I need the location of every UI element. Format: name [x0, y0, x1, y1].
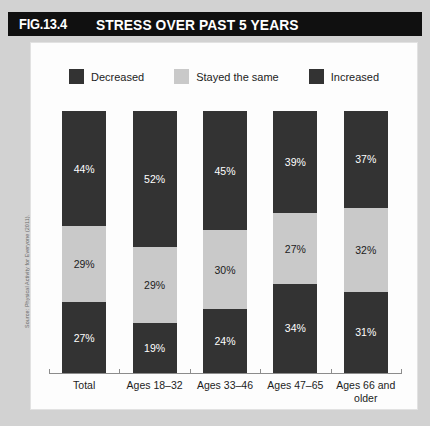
- stacked-bar: 52%29%19%: [133, 111, 177, 373]
- legend-item: Decreased: [69, 69, 144, 84]
- bar-group: 44%29%27%: [49, 111, 119, 373]
- bar-segment: 37%: [344, 111, 388, 208]
- bar-group: 37%32%31%: [331, 111, 401, 373]
- chart-plot-area: 44%29%27%52%29%19%45%30%24%39%27%34%37%3…: [49, 111, 401, 373]
- legend-label: Stayed the same: [196, 71, 279, 83]
- stacked-bar: 39%27%34%: [273, 111, 317, 373]
- bar-segment: 29%: [62, 226, 106, 302]
- bar-segment-value: 29%: [144, 279, 165, 291]
- bar-segment: 34%: [273, 284, 317, 373]
- bar-segment: 45%: [203, 111, 247, 230]
- bar-segment: 52%: [133, 111, 177, 247]
- x-axis-label: Ages 66 and older: [331, 379, 401, 405]
- bar-group: 52%29%19%: [119, 111, 189, 373]
- figure-title-bar: FIG.13.4 STRESS OVER PAST 5 YEARS: [8, 12, 422, 36]
- axis-tick: [49, 369, 50, 374]
- figure-number: FIG.13.4: [8, 16, 67, 32]
- bar-segment-value: 39%: [285, 156, 306, 168]
- bar-segment-value: 24%: [214, 335, 235, 347]
- bar-segment-value: 45%: [214, 165, 235, 177]
- bar-segment: 30%: [203, 230, 247, 309]
- bar-segment-value: 31%: [355, 326, 376, 338]
- legend-item: Stayed the same: [174, 69, 279, 84]
- chart-legend: DecreasedStayed the sameIncreased: [31, 69, 417, 84]
- bar-segment-value: 19%: [144, 342, 165, 354]
- bar-segment-value: 30%: [214, 264, 235, 276]
- bar-segment: 32%: [344, 208, 388, 292]
- bar-segment-value: 52%: [144, 173, 165, 185]
- stacked-bar: 45%30%24%: [203, 111, 247, 373]
- x-axis-label: Total: [49, 379, 119, 405]
- x-axis-label: Ages 18–32: [119, 379, 189, 405]
- x-axis-label: Ages 33–46: [190, 379, 260, 405]
- legend-swatch: [69, 69, 84, 84]
- stacked-bar: 37%32%31%: [344, 111, 388, 373]
- axis-tick: [401, 369, 402, 374]
- chart-panel: DecreasedStayed the sameIncreased 44%29%…: [30, 42, 418, 410]
- bar-segment-value: 34%: [285, 322, 306, 334]
- bar-segment: 19%: [133, 323, 177, 373]
- axis-tick: [331, 369, 332, 374]
- bar-segment: 44%: [62, 111, 106, 226]
- bar-group: 45%30%24%: [190, 111, 260, 373]
- x-axis-category-labels: TotalAges 18–32Ages 33–46Ages 47–65Ages …: [49, 379, 401, 405]
- bar-segment-value: 27%: [285, 243, 306, 255]
- axis-tick: [260, 369, 261, 374]
- figure-container: FIG.13.4 STRESS OVER PAST 5 YEARS Source…: [0, 0, 430, 426]
- bar-segment: 27%: [62, 302, 106, 373]
- legend-label: Decreased: [91, 71, 144, 83]
- bar-segment: 29%: [133, 247, 177, 323]
- bar-segment-value: 44%: [74, 163, 95, 175]
- x-axis-line: [49, 373, 401, 374]
- legend-label: Increased: [331, 71, 379, 83]
- legend-swatch: [174, 69, 189, 84]
- legend-swatch: [309, 69, 324, 84]
- bar-segment-value: 37%: [355, 153, 376, 165]
- bar-segment-value: 32%: [355, 244, 376, 256]
- bar-segment: 39%: [273, 111, 317, 213]
- bar-group: 39%27%34%: [260, 111, 330, 373]
- bar-segment-value: 29%: [74, 258, 95, 270]
- axis-tick: [119, 369, 120, 374]
- x-axis-label: Ages 47–65: [260, 379, 330, 405]
- figure-title: STRESS OVER PAST 5 YEARS: [72, 16, 299, 33]
- bar-segment-value: 27%: [74, 332, 95, 344]
- legend-item: Increased: [309, 69, 379, 84]
- axis-tick: [190, 369, 191, 374]
- bar-segment: 27%: [273, 213, 317, 284]
- bar-segment: 31%: [344, 292, 388, 373]
- bar-segment: 24%: [203, 309, 247, 373]
- stacked-bar: 44%29%27%: [62, 111, 106, 373]
